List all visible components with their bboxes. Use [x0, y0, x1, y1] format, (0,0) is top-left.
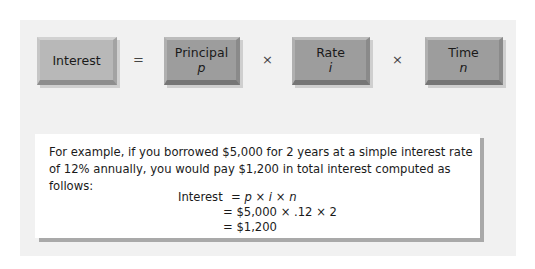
- interest-label: Interest: [52, 53, 100, 68]
- principal-label: Principal: [175, 45, 228, 60]
- equation-line-2: = $5,000 × .12 × 2: [223, 205, 337, 219]
- interest-box: Interest: [37, 37, 117, 85]
- equation-line-1: = p × i × n: [231, 190, 297, 204]
- time-label: Time: [448, 45, 479, 60]
- equals-operator: =: [133, 52, 144, 67]
- principal-box: Principal p: [164, 37, 240, 85]
- rate-symbol: i: [329, 60, 332, 75]
- principal-symbol: p: [198, 60, 206, 75]
- example-text: For example, if you borrowed $5,000 for …: [49, 144, 479, 195]
- time-symbol: n: [460, 60, 468, 75]
- equation-label: Interest: [178, 190, 223, 204]
- equation-line-3: = $1,200: [223, 220, 277, 234]
- multiply-operator-2: ×: [392, 52, 403, 67]
- rate-label: Rate: [316, 45, 345, 60]
- rate-box: Rate i: [292, 37, 370, 85]
- time-box: Time n: [425, 37, 503, 85]
- example-card: For example, if you borrowed $5,000 for …: [35, 134, 480, 238]
- multiply-operator-1: ×: [262, 52, 273, 67]
